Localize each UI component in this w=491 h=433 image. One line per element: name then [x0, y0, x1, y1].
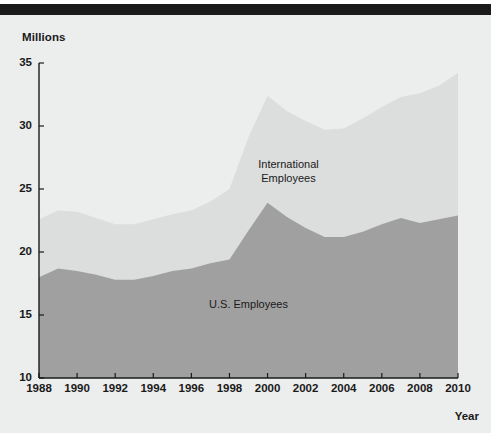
chart-canvas: Millions 101520253035 198819901992199419…: [0, 15, 491, 433]
x-tick-label-1988: 1988: [26, 382, 52, 394]
x-tick-label-1998: 1998: [217, 382, 243, 394]
area-chart-svg: [0, 15, 491, 433]
x-tick-label-2002: 2002: [293, 382, 319, 394]
x-axis-title: Year: [455, 410, 479, 422]
chart-page: Millions 101520253035 198819901992199419…: [0, 0, 491, 433]
series-annotation-international-line2: Employees: [258, 171, 319, 185]
x-tick-label-2008: 2008: [407, 382, 433, 394]
x-tick-label-2006: 2006: [369, 382, 395, 394]
x-tick-label-1990: 1990: [64, 382, 90, 394]
series-annotation-us: U.S. Employees: [209, 297, 288, 311]
series-layer: [39, 73, 458, 378]
y-tick-label-20: 20: [2, 245, 32, 257]
x-tick-label-1992: 1992: [102, 382, 128, 394]
y-tick-label-35: 35: [2, 56, 32, 68]
series-annotation-international-line1: International: [258, 157, 319, 171]
top-rule-divider: [0, 4, 491, 15]
y-tick-label-30: 30: [2, 119, 32, 131]
x-tick-label-2000: 2000: [255, 382, 281, 394]
y-tick-label-15: 15: [2, 308, 32, 320]
x-tick-label-1996: 1996: [179, 382, 205, 394]
y-tick-label-25: 25: [2, 182, 32, 194]
x-tick-label-2004: 2004: [331, 382, 357, 394]
x-tick-label-2010: 2010: [445, 382, 471, 394]
series-annotation-international: InternationalEmployees: [258, 157, 319, 185]
x-tick-label-1994: 1994: [140, 382, 166, 394]
